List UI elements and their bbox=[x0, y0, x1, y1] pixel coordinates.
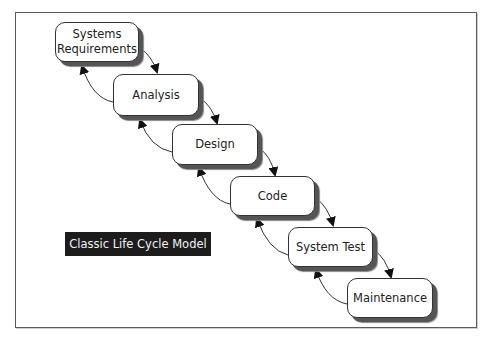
stage-code: Code bbox=[230, 176, 315, 216]
stage-analysis: Analysis bbox=[113, 74, 199, 116]
stage-maintenance: Maintenance bbox=[347, 278, 433, 318]
stage-label: Analysis bbox=[132, 88, 179, 103]
stage-label: Code bbox=[258, 189, 287, 204]
diagram-title-label: Classic Life Cycle Model bbox=[65, 232, 211, 256]
stage-label: System Test bbox=[296, 240, 365, 255]
stage-label-line1: Systems bbox=[57, 27, 137, 42]
stage-label-line2: Requirements bbox=[57, 42, 137, 57]
stage-label: Design bbox=[195, 137, 235, 152]
stage-label: Maintenance bbox=[353, 291, 427, 306]
stage-system-test: System Test bbox=[288, 227, 373, 267]
stage-systems-requirements: Systems Requirements bbox=[55, 22, 139, 62]
stage-design: Design bbox=[172, 124, 258, 165]
